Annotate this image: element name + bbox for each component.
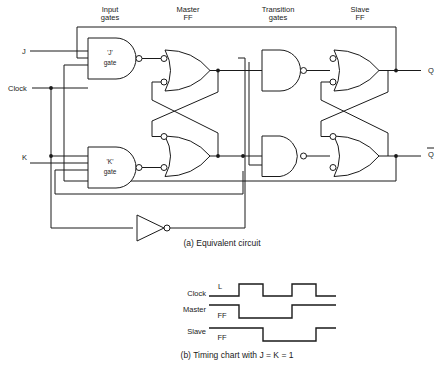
clock-inverter-output-bubble [164,225,170,231]
j-gate[interactable]: 'J' gate [88,38,142,79]
timing-wave-master [209,305,336,318]
output-label-q: Q [428,66,434,75]
junction-q-out [394,69,398,73]
master-or-top-input-bubble-1 [161,56,167,62]
caption-a: (a) Equivalent circuit [183,238,261,248]
master-or-top[interactable] [161,50,210,91]
slave-or-top-body [334,50,379,91]
timing-wave-slave [209,328,336,341]
transition-nand-bottom-body [262,136,297,177]
timing-row-label-slave: Slave [187,327,206,336]
k-gate[interactable]: 'K' gate [88,147,142,188]
section-header-line2: gates [269,13,288,22]
slave-or-bottom-input-bubble-1 [330,134,336,140]
input-label-j: J [22,47,26,56]
timing-level-clock: L [218,282,222,291]
slave-or-bottom[interactable] [330,134,379,177]
section-header-input-gates: Input gates [101,5,120,22]
master-or-bottom[interactable] [161,134,210,177]
output-label-qbar-group: Q [427,148,434,159]
k-gate-label-line1: 'K' [107,158,114,165]
slave-or-bottom-input-bubble-2 [330,165,336,171]
figure-root: Input gates Master FF Transition gates S… [0,0,445,370]
input-label-clock: Clock [8,84,27,93]
master-or-bottom-input-bubble-1 [161,134,167,140]
slave-or-top-input-bubble-2 [330,79,336,85]
circuit-diagram-svg: Input gates Master FF Transition gates S… [0,0,445,370]
junction-master-bottom-branch [241,154,245,158]
slave-or-top-input-bubble-1 [330,56,336,62]
section-header-line2: FF [183,13,193,22]
caption-b: (b) Timing chart with J = K = 1 [181,350,294,360]
k-gate-output-bubble [136,165,142,171]
section-header-transition-gates: Transition gates [262,5,295,22]
clock-inverter-body [137,215,164,241]
timing-row-label-master: Master [183,305,206,314]
output-label-qbar: Q [428,150,434,159]
transition-nand-bottom[interactable] [262,136,307,177]
transition-nand-bottom-output-bubble [301,153,307,159]
section-header-line2: FF [355,13,365,22]
input-label-k: K [22,153,27,162]
j-gate-label-line2: gate [104,59,117,67]
master-or-top-body [165,50,210,91]
slave-or-bottom-body [334,136,379,177]
k-gate-label-line2: gate [104,168,117,176]
timing-wave-clock [209,284,336,296]
transition-nand-top[interactable] [262,50,307,91]
j-gate-label-line1: 'J' [107,49,113,56]
section-header-slave-ff: Slave FF [351,5,370,22]
junction-qbar-out [394,154,398,158]
section-header-master-ff: Master FF [177,5,200,22]
clock-inverter[interactable] [137,215,170,241]
timing-row-label-clock: Clock [187,289,206,298]
section-header-line2: gates [101,13,120,22]
master-or-top-input-bubble-2 [161,79,167,85]
timing-level-slave: FF [217,333,227,342]
transition-nand-top-output-bubble [301,68,307,74]
slave-or-top[interactable] [330,50,379,91]
transition-nand-top-body [262,50,301,91]
timing-level-master: FF [217,311,227,320]
wire-master-top-branch-down [249,71,262,166]
master-or-bottom-body [165,136,210,177]
j-gate-output-bubble [136,56,142,62]
master-or-bottom-input-bubble-2 [161,165,167,171]
